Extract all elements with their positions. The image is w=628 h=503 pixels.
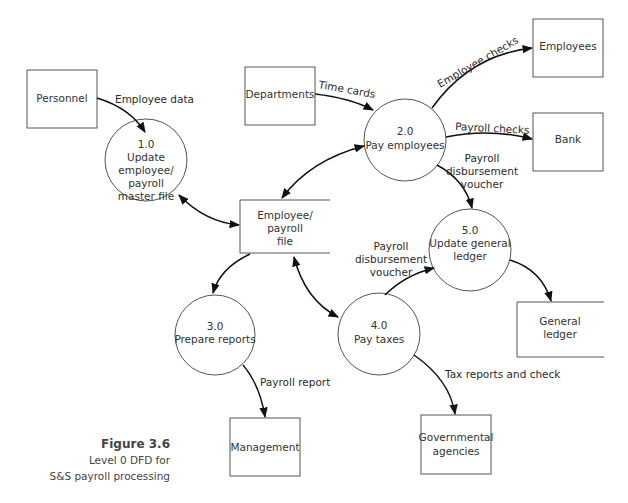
process-label: payroll (128, 177, 164, 189)
process-2-pay-employees[interactable]: 2.0 Pay employees (364, 99, 446, 181)
process-3-prepare-reports[interactable]: 3.0 Prepare reports (174, 295, 255, 375)
flow-payroll-report[interactable] (243, 365, 265, 417)
flow-label-voucher-a: Payroll (465, 152, 500, 164)
process-number: 3.0 (207, 320, 224, 332)
process-label: Pay taxes (354, 333, 404, 345)
flow-employee-file-p3[interactable] (213, 254, 250, 293)
process-number: 2.0 (397, 125, 414, 137)
process-label: Update general (429, 237, 510, 249)
process-number: 5.0 (462, 224, 479, 236)
flow-label-voucher-a: voucher (461, 178, 504, 190)
datastore-label: ledger (543, 328, 577, 340)
entity-label: Departments (245, 88, 314, 100)
figure-subtitle: Level 0 DFD for (50, 452, 170, 468)
process-label: Pay employees (365, 139, 444, 151)
flow-label-voucher-b: voucher (370, 266, 413, 278)
process-4-pay-taxes[interactable]: 4.0 Pay taxes (338, 293, 420, 375)
flow-p2-employee-file[interactable] (282, 146, 364, 198)
datastore-label: Employee/ (257, 209, 313, 221)
process-1-update-master-file[interactable]: 1.0 Update employee/ payroll master file (105, 119, 187, 202)
entity-governmental-agencies[interactable]: Governmental agencies (419, 415, 494, 474)
flow-employee-file-p4[interactable] (294, 257, 338, 317)
process-number: 4.0 (371, 319, 388, 331)
entity-personnel[interactable]: Personnel (27, 70, 97, 128)
entity-label: Employees (539, 40, 596, 52)
datastore-employee-payroll-file[interactable]: Employee/ payroll file (240, 200, 330, 253)
process-label: master file (118, 190, 174, 202)
process-number: 1.0 (138, 138, 155, 150)
process-label: Prepare reports (174, 333, 255, 345)
flow-label-payroll-report: Payroll report (260, 376, 330, 388)
flow-label-voucher-a: disbursement (446, 165, 518, 177)
flow-p1-employee-file[interactable] (179, 195, 239, 225)
datastore-label: file (277, 235, 293, 247)
flow-label-tax-reports: Tax reports and check (444, 368, 561, 380)
datastore-label: General (539, 315, 580, 327)
entity-management[interactable]: Management (230, 418, 300, 476)
figure-subtitle: S&S payroll processing (50, 468, 170, 484)
flow-label-employee-checks: Employee checks (435, 34, 520, 90)
flow-label-employee-data: Employee data (115, 93, 194, 105)
process-label: Update (127, 151, 165, 163)
flow-p5-general-ledger[interactable] (510, 260, 551, 301)
entity-label: agencies (433, 445, 480, 457)
process-5-update-general-ledger[interactable]: 5.0 Update general ledger (429, 209, 511, 291)
entity-bank[interactable]: Bank (533, 113, 603, 171)
figure-caption: Figure 3.6 Level 0 DFD for S&S payroll p… (50, 436, 170, 484)
datastore-label: payroll (267, 222, 303, 234)
figure-number: Figure 3.6 (50, 436, 170, 452)
flow-label-voucher-b: disbursement (355, 253, 427, 265)
entity-departments[interactable]: Departments (245, 67, 315, 125)
flow-label-time-cards: Time cards (317, 78, 377, 100)
entity-label: Governmental (419, 431, 494, 443)
entity-label: Bank (555, 133, 582, 145)
entity-employees[interactable]: Employees (533, 19, 603, 77)
dfd-canvas: Personnel Departments Employees Bank Man… (0, 0, 628, 503)
process-label: ledger (453, 250, 487, 262)
datastore-general-ledger[interactable]: General ledger (517, 302, 604, 357)
flow-tax-reports[interactable] (414, 355, 455, 414)
flow-label-voucher-b: Payroll (374, 240, 409, 252)
entity-label: Management (230, 441, 299, 453)
process-label: employee/ (118, 164, 174, 176)
entity-label: Personnel (36, 92, 87, 104)
